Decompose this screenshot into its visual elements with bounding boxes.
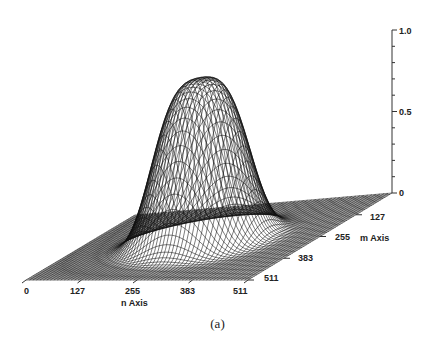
z-tick-label-0: 0	[399, 188, 404, 198]
z-axis-tick-labels: 1.0 0.5 0	[399, 26, 412, 198]
m-tick-label-383: 383	[298, 253, 313, 263]
m-axis-label: m Axis	[360, 233, 389, 243]
n-tick-label-383: 383	[180, 286, 195, 296]
n-tick-label-0: 0	[24, 286, 29, 296]
n-tick-label-127: 127	[70, 286, 85, 296]
wireframe-mesh	[26, 77, 392, 280]
m-tick-label-511: 511	[264, 273, 279, 283]
surface-plot-figure: 1.0 0.5 0 0 127 255 383 511 n Axis 127 2…	[0, 0, 435, 348]
z-tick-label-0.5: 0.5	[399, 107, 412, 117]
n-axis-label: n Axis	[121, 298, 148, 308]
figure-caption: (a)	[0, 316, 435, 332]
n-tick-label-255: 255	[125, 286, 140, 296]
surface-plot: 1.0 0.5 0 0 127 255 383 511 n Axis 127 2…	[0, 0, 435, 348]
z-axis-ticks	[392, 30, 397, 193]
n-tick-label-511: 511	[233, 286, 248, 296]
m-tick-label-127: 127	[370, 212, 385, 222]
z-tick-label-1: 1.0	[399, 26, 412, 36]
n-axis-ticks	[22, 280, 248, 283]
n-axis-tick-labels: 0 127 255 383 511	[24, 286, 248, 296]
m-tick-label-255: 255	[335, 232, 350, 242]
